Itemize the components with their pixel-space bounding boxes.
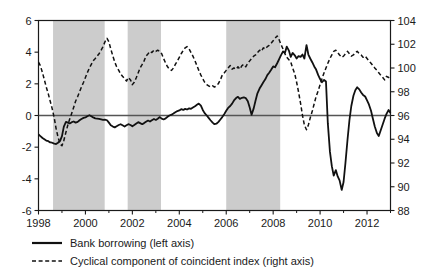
dual-axis-time-series-chart: -6-4-20246889092949698100102104199820002… <box>0 0 438 269</box>
legend-label[interactable]: Cyclical component of coincident index (… <box>70 255 314 267</box>
y-axis-tick-label-right: 94 <box>398 133 410 145</box>
y-axis-tick-label-left: 2 <box>25 78 31 90</box>
x-axis-tick-label: 2010 <box>308 217 332 229</box>
x-axis-tick-label: 2006 <box>214 217 238 229</box>
y-axis-tick-label-right: 92 <box>398 157 410 169</box>
y-axis-tick-label-left: 0 <box>25 110 31 122</box>
y-axis-tick-label-right: 96 <box>398 110 410 122</box>
y-axis-tick-label-right: 104 <box>398 15 416 27</box>
x-axis-tick-label: 2008 <box>261 217 285 229</box>
y-axis-tick-label-right: 100 <box>398 62 416 74</box>
y-axis-tick-label-right: 102 <box>398 38 416 50</box>
y-axis-tick-label-right: 88 <box>398 205 410 217</box>
y-axis-tick-label-right: 90 <box>398 181 410 193</box>
y-axis-tick-label-right: 98 <box>398 86 410 98</box>
y-axis-tick-label-left: -2 <box>22 141 32 153</box>
y-axis-tick-label-left: -6 <box>22 205 32 217</box>
x-axis-tick-label: 2004 <box>167 217 191 229</box>
y-axis-tick-label-left: 6 <box>25 15 31 27</box>
x-axis-tick-label: 2002 <box>120 217 144 229</box>
y-axis-tick-label-left: -4 <box>22 173 32 185</box>
y-axis-tick-label-left: 4 <box>25 46 31 58</box>
chart-figure: -6-4-20246889092949698100102104199820002… <box>0 0 438 269</box>
x-axis-tick-label: 2012 <box>355 217 379 229</box>
x-axis-tick-label: 1998 <box>26 217 50 229</box>
legend-label[interactable]: Bank borrowing (left axis) <box>70 237 194 249</box>
x-axis-tick-label: 2000 <box>73 217 97 229</box>
